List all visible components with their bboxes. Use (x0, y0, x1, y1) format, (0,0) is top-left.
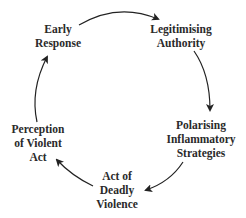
arrow-early-to-legitimising (79, 12, 158, 25)
node-line: Authority (148, 36, 214, 50)
arrow-legitimising-to-polarising (194, 51, 210, 110)
node-line: of Violent (8, 136, 68, 150)
node-perception-of-violent-act: Perception of Violent Act (8, 122, 68, 164)
node-line: Deadly (92, 183, 142, 197)
node-polarising-inflammatory-strategies: Polarising Inflammatory Strategies (164, 118, 238, 160)
arrow-perception-to-early (35, 57, 47, 122)
node-line: Perception (8, 122, 68, 136)
node-line: Legitimising (148, 22, 214, 36)
node-line: Inflammatory (164, 132, 238, 146)
node-act-of-deadly-violence: Act of Deadly Violence (92, 169, 142, 211)
node-legitimising-authority: Legitimising Authority (148, 22, 214, 50)
node-line: Act (8, 150, 68, 164)
node-line: Polarising (164, 118, 238, 132)
node-line: Violence (92, 197, 142, 211)
node-line: Act of (92, 169, 142, 183)
node-line: Response (33, 36, 83, 50)
node-line: Early (33, 22, 83, 36)
node-early-response: Early Response (33, 22, 83, 50)
node-line: Strategies (164, 146, 238, 160)
arrow-polarising-to-deadly (146, 162, 183, 190)
